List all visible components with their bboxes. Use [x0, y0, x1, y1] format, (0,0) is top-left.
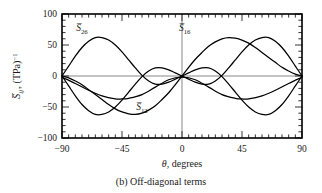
x-axis-title-text: , degrees: [167, 158, 203, 169]
annotation-subscript: 26: [81, 28, 88, 35]
x-tick-label: 0: [180, 144, 185, 154]
figure-caption: (b) Off-diagonal terms: [116, 176, 206, 188]
x-tick-label: 45: [237, 144, 247, 154]
y-tick-label: 50: [48, 40, 58, 50]
x-tick-label: −90: [55, 144, 70, 154]
y-tick-label: 0: [52, 71, 57, 81]
x-axis-title: θ, degrees: [162, 158, 203, 169]
off-diagonal-terms-chart: −100−50050100 −90−4504590 S̅ij′, (TPa)−1…: [0, 0, 322, 193]
y-tick-label: 100: [43, 9, 58, 19]
annotation-subscript: 16: [184, 28, 191, 35]
y-axis-title: S̅ij′, (TPa)−1: [11, 53, 24, 99]
svg-text:S̅ij′, (TPa)−1: S̅ij′, (TPa)−1: [11, 53, 24, 99]
y-axis-tick-labels: −100−50050100: [37, 9, 57, 143]
y-tick-label: −100: [37, 133, 57, 143]
y-axis-units-exponent: −1: [11, 53, 18, 60]
y-axis-units: , (TPa): [11, 61, 23, 89]
x-tick-label: 90: [297, 144, 307, 154]
annotation-subscript: 12: [141, 107, 148, 114]
x-axis-tick-labels: −90−4504590: [55, 144, 307, 154]
x-tick-label: −45: [115, 144, 130, 154]
y-tick-label: −50: [42, 102, 57, 112]
figure-container: −100−50050100 −90−4504590 S̅ij′, (TPa)−1…: [0, 0, 322, 193]
